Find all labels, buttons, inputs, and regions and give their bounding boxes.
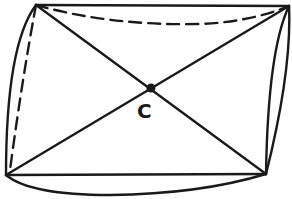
curved-quadrilateral-diagram: C — [0, 0, 292, 199]
edge-top-straight — [36, 5, 289, 6]
center-point — [147, 84, 156, 93]
edge-bottom-straight — [6, 174, 266, 175]
edge-top-dashed-curve — [36, 5, 289, 24]
edge-bottom-curve — [6, 174, 266, 195]
edge-right-inner-curve — [266, 6, 289, 174]
center-label: C — [137, 99, 152, 123]
